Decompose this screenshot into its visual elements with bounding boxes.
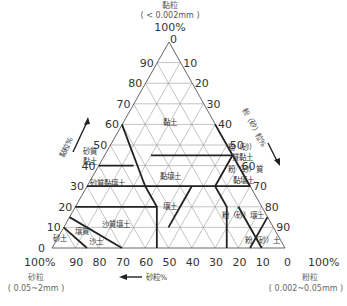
left-zero-label: 0 [38, 242, 45, 255]
left-tick: 60 [105, 118, 119, 131]
sand-title: 砂粒 [10, 272, 62, 283]
region-label: 粉（砂）壤土 [222, 210, 265, 220]
bottom-tick: 30 [209, 256, 223, 269]
right-tick: 80 [265, 201, 279, 214]
right-tick: 40 [218, 118, 232, 131]
bottom-tick: 40 [186, 256, 200, 269]
left-tick: 10 [47, 221, 61, 234]
clay-100-percent: 100% [120, 21, 220, 34]
right-tick: 20 [195, 77, 209, 90]
region-label: 黏土 [163, 117, 178, 127]
right-axis-arrow [268, 143, 280, 166]
region-label: 沙土 [89, 236, 104, 246]
right-tick: 70 [253, 180, 267, 193]
region-label: 黏壤土 [233, 175, 255, 185]
region-label: 粉（砂）質 [228, 164, 264, 174]
region-label: 砂質 [83, 146, 98, 156]
right-tick: 10 [183, 57, 197, 70]
bottom-tick: 90 [69, 256, 83, 269]
region-label: 壤質 [75, 226, 90, 236]
region-label: 黏土 [83, 156, 98, 166]
clay-range: ( < 0.002mm ) [120, 11, 220, 21]
bottom-tick-labels: 908070605040302010 [69, 256, 269, 269]
left-tick: 90 [140, 57, 154, 70]
bottom-tick: 80 [93, 256, 107, 269]
right-tick: 90 [276, 221, 290, 234]
region-label: 黏壤土 [160, 171, 182, 181]
sand-range: ( 0.05~2mm ) [0, 283, 72, 294]
right-axis-label: 粉（砂）粒% [240, 106, 269, 148]
bottom-axis-label: 砂粒% [146, 272, 167, 282]
left-tick: 80 [128, 77, 142, 90]
left-tick: 20 [58, 201, 72, 214]
region-label: 粉（砂） [228, 142, 256, 152]
left-tick: 30 [70, 180, 84, 193]
region-label: 壤土 [163, 201, 178, 211]
region-label: 砂質黏壤土 [90, 178, 126, 188]
bottom-tick: 10 [256, 256, 270, 269]
bottom-tick: 70 [116, 256, 130, 269]
right-zero-label: 0 [284, 256, 291, 269]
region-label: 質黏土 [232, 152, 254, 162]
region-labels: 黏土砂質黏土粉（砂）質黏土黏壤土粉（砂）質黏壤土砂質黏壤土壤土粉（砂）壤土沙質壤… [53, 117, 281, 246]
bottom-tick: 20 [232, 256, 246, 269]
region-label: 砂土 [53, 233, 68, 243]
sand-100-percent: 100% [24, 256, 55, 269]
clay-title: 黏粒 [120, 1, 220, 11]
silt-100-percent: 100% [308, 256, 339, 269]
silt-range: ( 0.002~0.05mm ) [262, 283, 347, 294]
bottom-axis-arrow [119, 274, 142, 280]
region-label: 沙質壤土 [102, 219, 131, 229]
bottom-tick: 60 [139, 256, 153, 269]
bottom-tick: 50 [163, 256, 177, 269]
left-tick: 70 [117, 98, 131, 111]
silt-title: 粉粒 [280, 272, 340, 283]
top-zero-label: 0 [170, 33, 177, 46]
right-tick: 30 [206, 98, 220, 111]
region-label: 粉（砂）土 [245, 235, 281, 245]
left-axis-label: 黏粒% [57, 135, 75, 158]
